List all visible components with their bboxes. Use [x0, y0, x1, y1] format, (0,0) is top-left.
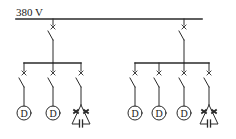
switch-blade-icon: [204, 78, 209, 87]
switch-blade-icon: [130, 78, 135, 87]
motor-label: D: [49, 108, 56, 119]
branch-motor: D: [17, 63, 31, 120]
bus-voltage-label: 380 V: [16, 6, 43, 18]
switch-blade-icon: [76, 78, 81, 87]
branch-motor: D: [177, 63, 191, 120]
branch-motor: D: [46, 63, 60, 120]
feeder-left: D D: [17, 19, 90, 127]
switch-blade-icon: [19, 78, 24, 87]
motor-label: D: [180, 108, 187, 119]
breaker-x-icon: [157, 71, 161, 75]
capacitor-bank-icon: [200, 105, 218, 127]
breaker-x-icon: [51, 71, 55, 75]
branch-motor: D: [152, 63, 166, 120]
breaker-x-icon: [22, 71, 26, 75]
branch-capacitor: [200, 63, 218, 127]
motor-label: D: [131, 108, 138, 119]
switch-blade-icon: [48, 78, 53, 87]
breaker-x-icon: [133, 71, 137, 75]
breaker-x-icon: [79, 71, 83, 75]
capacitor-bank-icon: [72, 105, 90, 127]
branch-motor: D: [128, 63, 142, 120]
breaker-x-icon: [207, 71, 211, 75]
motor-label: D: [155, 108, 162, 119]
single-line-diagram: 380 V D D: [0, 0, 236, 139]
switch-blade-icon: [154, 78, 159, 87]
switch-blade-icon: [48, 31, 53, 40]
feeder-right: D D D: [128, 19, 218, 127]
breaker-x-icon: [182, 71, 186, 75]
breaker-x-icon: [182, 25, 186, 29]
branch-capacitor: [72, 63, 90, 127]
breaker-x-icon: [51, 25, 55, 29]
switch-blade-icon: [179, 31, 184, 40]
switch-blade-icon: [179, 78, 184, 87]
motor-label: D: [20, 108, 27, 119]
